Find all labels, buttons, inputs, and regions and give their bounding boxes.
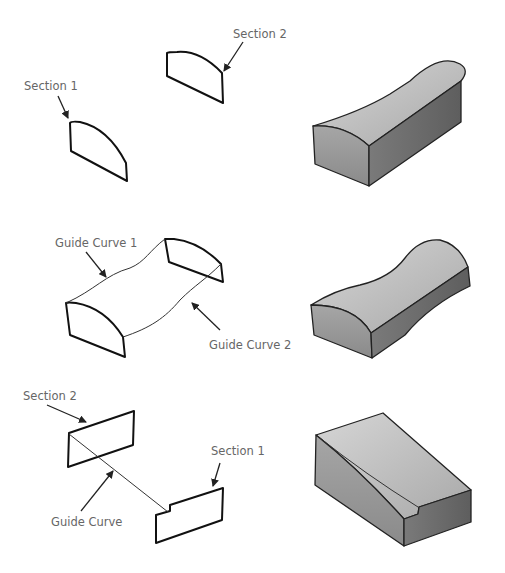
section-1-label: Section 1 <box>24 79 78 93</box>
section-2-arrow-row3 <box>47 405 86 422</box>
guide-curve-line <box>69 434 168 512</box>
row-3-sections: Section 2 Section 1 Guide Curve <box>23 389 265 543</box>
section-2-profile <box>167 52 223 103</box>
loft-diagram: Section 2 Section 1 Guide Curve 1 Guide … <box>0 0 505 573</box>
section-1-arrow-row3 <box>213 463 220 486</box>
section-2-label-row3: Section 2 <box>23 389 77 403</box>
row-2-sections: Guide Curve 1 Guide Curve 2 <box>55 236 291 357</box>
guide-curve-2-label: Guide Curve 2 <box>209 338 291 352</box>
guide-curve-1-label: Guide Curve 1 <box>55 236 137 250</box>
section-2-arrow <box>224 42 243 71</box>
guide-curve-label: Guide Curve <box>51 515 122 529</box>
guide-curve-arrow <box>81 471 113 511</box>
row-3-solid <box>315 413 471 546</box>
row-1-sections: Section 2 Section 1 <box>24 27 287 181</box>
section-1-notched-rectangle <box>156 488 223 543</box>
front-section-profile <box>66 303 125 358</box>
row-1-solid <box>313 61 465 186</box>
section-1-label-row3: Section 1 <box>211 444 265 458</box>
guide-curve-1-arrow <box>86 252 106 277</box>
section-1-arrow <box>58 96 68 118</box>
guide-curve-2-arrow <box>192 303 220 330</box>
section-1-profile <box>70 122 127 181</box>
section-2-label: Section 2 <box>233 27 287 41</box>
back-section-profile <box>165 239 223 282</box>
row-2-solid <box>311 240 470 358</box>
